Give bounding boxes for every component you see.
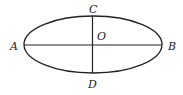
label-A: A: [9, 40, 18, 53]
label-B: B: [167, 40, 176, 53]
label-C: C: [89, 3, 98, 16]
label-D: D: [87, 78, 97, 91]
ellipse-diagram: A B C D O: [0, 0, 183, 95]
label-O-center: O: [97, 30, 106, 43]
